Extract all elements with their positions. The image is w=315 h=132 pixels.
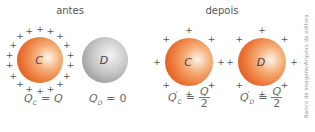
plus-charge-icon: +	[67, 60, 75, 70]
formula-equals: =	[106, 92, 115, 105]
plus-charge-icon: +	[153, 57, 161, 67]
sphere-label-before-d: D	[100, 54, 108, 67]
formula-prime: '	[248, 90, 250, 98]
plus-charge-icon: +	[63, 71, 71, 81]
plus-charge-icon: +	[163, 34, 171, 44]
plus-charge-icon: +	[26, 26, 34, 36]
fraction: Q2	[271, 86, 282, 109]
plus-charge-icon: +	[16, 79, 24, 89]
sphere-label-before-c: C	[35, 54, 43, 67]
plus-charge-icon: +	[185, 25, 193, 35]
plus-charge-icon: +	[47, 26, 55, 36]
plus-charge-icon: +	[36, 24, 44, 34]
plus-charge-icon: +	[281, 34, 289, 44]
formula-symbol: Q	[89, 92, 98, 105]
plus-charge-icon: +	[217, 57, 225, 67]
plus-charge-icon: +	[9, 71, 17, 81]
plus-charge-icon: +	[56, 79, 64, 89]
formula-subscript: C	[33, 99, 37, 106]
formula-after-d: Q'D= Q2	[240, 86, 282, 109]
plus-charge-icon: +	[16, 31, 24, 41]
formula-prime: '	[176, 90, 178, 98]
formula-before-d: QD=0	[89, 92, 127, 105]
formula-equals: =	[41, 92, 50, 105]
sphere-label-after-d: D	[257, 56, 265, 69]
plus-charge-icon: +	[258, 25, 266, 35]
image-credit: Banco de imagens/Arquivo da editora	[303, 14, 309, 118]
formula-symbol: Q	[24, 92, 33, 105]
formula-subscript: C	[178, 98, 182, 105]
plus-charge-icon: +	[290, 57, 298, 67]
fraction-denominator: 2	[201, 98, 208, 109]
formula-subscript: D	[98, 99, 103, 106]
fraction-denominator: 2	[273, 98, 280, 109]
plus-charge-icon: +	[67, 50, 75, 60]
formula-before-c: QC=Q	[24, 92, 63, 105]
plus-charge-icon: +	[6, 60, 14, 70]
plus-charge-icon: +	[208, 34, 216, 44]
formula-value: Q	[54, 92, 63, 105]
formula-after-c: Q'C= Q2	[168, 86, 210, 109]
formula-equals: =	[186, 91, 195, 104]
plus-charge-icon: +	[236, 34, 244, 44]
formula-subscript: D	[250, 98, 255, 105]
plus-charge-icon: +	[63, 40, 71, 50]
formula-value: 0	[120, 92, 127, 105]
plus-charge-icon: +	[6, 50, 14, 60]
plus-charge-icon: +	[226, 57, 234, 67]
fraction: Q2	[199, 86, 210, 109]
spheres-diagram: ++++++++++++++++++++++++++++++++++ CDCD	[0, 0, 315, 132]
sphere-label-after-c: C	[184, 56, 192, 69]
formula-equals: =	[258, 91, 267, 104]
